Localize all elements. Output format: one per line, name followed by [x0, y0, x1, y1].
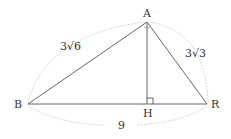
label-H: H	[143, 107, 153, 120]
label-A: A	[142, 7, 152, 20]
label-BR: 9	[118, 119, 125, 132]
arc-AB	[28, 22, 145, 103]
label-B: B	[14, 98, 22, 111]
label-R: R	[211, 98, 220, 111]
triangle-diagram: A B R H 3√6 3√3 9	[0, 0, 231, 139]
segment-AB	[28, 22, 147, 104]
right-angle-H	[147, 98, 153, 104]
arc-BR-left	[28, 106, 105, 125]
segment-AR	[147, 22, 207, 104]
label-AB: 3√6	[60, 40, 81, 53]
arc-AR	[149, 22, 208, 102]
label-AR: 3√3	[185, 47, 206, 60]
